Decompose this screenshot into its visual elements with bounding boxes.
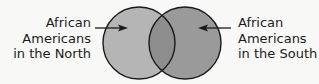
- venn-diagram: [0, 0, 319, 84]
